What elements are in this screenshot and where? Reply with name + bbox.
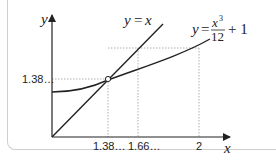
curve-cubic — [52, 39, 210, 92]
x-axis-label: x — [223, 140, 231, 156]
x-tick-2: 2 — [196, 140, 202, 152]
line-label-eq: = — [134, 12, 142, 28]
curve-label-denominator: 12 — [211, 29, 224, 44]
line-label-x: x — [144, 12, 152, 28]
curve-label-tail: + 1 — [228, 21, 248, 37]
curve-label-exponent: 3 — [219, 14, 223, 23]
x-tick-166: 1.66… — [128, 140, 160, 152]
y-axis-label: y — [39, 11, 48, 27]
line-label-y: y — [122, 12, 131, 28]
curve-label-eq: = — [201, 21, 209, 37]
curve-label-numerator: x — [211, 15, 218, 30]
x-tick-138: 1.38… — [93, 140, 125, 152]
intersection-point — [105, 76, 110, 81]
y-tick-138: 1.38… — [22, 73, 54, 85]
curve-label-y: y — [190, 21, 199, 37]
graph: y x y = x y = x 3 12 + 1 1.38… 1.38… 1.6… — [0, 0, 276, 160]
